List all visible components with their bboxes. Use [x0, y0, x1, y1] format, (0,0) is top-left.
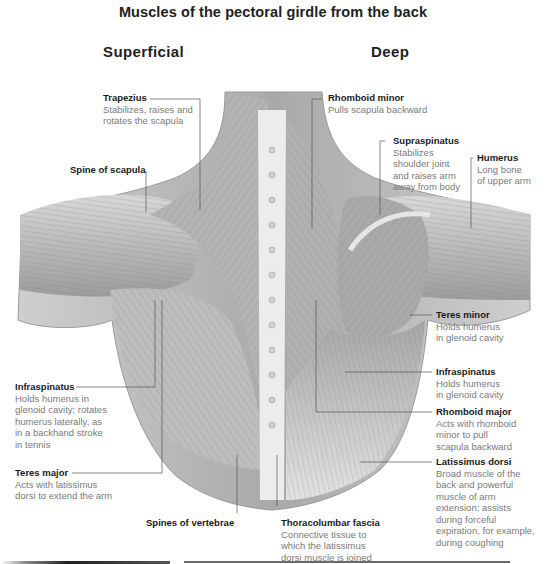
- label-humerus: Humerus Long bone of upper arm: [477, 152, 531, 187]
- label-name: Spine of scapula: [70, 164, 146, 176]
- label-spine-of-scapula: Spine of scapula: [70, 164, 146, 176]
- label-name: Rhomboid minor: [328, 92, 427, 104]
- label-name: Spines of vertebrae: [146, 517, 234, 529]
- label-desc-line: during forceful: [436, 514, 535, 526]
- label-desc-line: of upper arm: [477, 175, 531, 187]
- label-desc-line: rotates the scapula: [103, 115, 193, 127]
- label-desc-line: scapula backward: [436, 441, 516, 453]
- label-desc-line: in glenoid cavity: [436, 332, 504, 344]
- label-name: Supraspinatus: [393, 135, 460, 147]
- label-desc-line: which the latissimus: [281, 540, 380, 552]
- label-desc-line: in tennis: [15, 439, 107, 451]
- label-desc-line: away from body: [393, 181, 460, 193]
- label-desc-line: minor to pull: [436, 429, 516, 441]
- spine-fascia: [258, 110, 286, 500]
- label-trapezius: Trapezius Stabilizes, raises and rotates…: [103, 92, 193, 127]
- label-infraspinatus-superficial: Infraspinatus Holds humerus in glenoid c…: [15, 381, 107, 450]
- label-teres-major: Teres major Acts with latissimus dorsi t…: [15, 467, 112, 502]
- label-name: Humerus: [477, 152, 531, 164]
- label-rhomboid-minor: Rhomboid minor Pulls scapula backward: [328, 92, 427, 115]
- label-desc-line: Long bone: [477, 164, 531, 176]
- label-desc-line: back and powerful: [436, 479, 535, 491]
- label-desc-line: Holds humerus: [436, 378, 504, 390]
- label-desc-line: dorsi to extend the arm: [15, 490, 112, 502]
- label-name: Rhomboid major: [436, 406, 516, 418]
- label-thoracolumbar-fascia: Thoracolumbar fascia Connective tissue t…: [281, 517, 380, 563]
- label-desc-line: Holds humerus in: [15, 393, 107, 405]
- label-desc-line: shoulder joint: [393, 158, 460, 170]
- label-desc-line: humerus laterally, as: [15, 416, 107, 428]
- label-desc-line: during coughing: [436, 537, 535, 549]
- label-rhomboid-major: Rhomboid major Acts with rhomboid minor …: [436, 406, 516, 452]
- label-spines-of-vertebrae: Spines of vertebrae: [146, 517, 234, 529]
- label-name: Thoracolumbar fascia: [281, 517, 380, 529]
- label-desc-line: Holds humerus: [436, 321, 504, 333]
- label-name: Trapezius: [103, 92, 193, 104]
- label-latissimus-dorsi: Latissimus dorsi Broad muscle of the bac…: [436, 456, 535, 548]
- label-infraspinatus-deep: Infraspinatus Holds humerus in glenoid c…: [436, 366, 504, 401]
- label-supraspinatus: Supraspinatus Stabilizes shoulder joint …: [393, 135, 460, 193]
- label-name: Teres minor: [436, 309, 504, 321]
- bottom-rule: [184, 561, 510, 563]
- label-desc-line: Stabilizes: [393, 147, 460, 159]
- label-desc-line: Stabilizes, raises and: [103, 104, 193, 116]
- label-name: Latissimus dorsi: [436, 456, 535, 468]
- label-name: Infraspinatus: [15, 381, 107, 393]
- label-name: Teres major: [15, 467, 112, 479]
- label-desc-line: in a backhand stroke: [15, 427, 107, 439]
- label-desc-line: Pulls scapula backward: [328, 104, 427, 116]
- label-desc-line: Acts with latissimus: [15, 479, 112, 491]
- label-desc-line: Connective tissue to: [281, 529, 380, 541]
- label-desc-line: and raises arm: [393, 170, 460, 182]
- label-desc-line: Broad muscle of the: [436, 468, 535, 480]
- label-desc-line: in glenoid cavity: [436, 389, 504, 401]
- label-name: Infraspinatus: [436, 366, 504, 378]
- label-desc-line: muscle of arm: [436, 491, 535, 503]
- label-desc-line: extension; assists: [436, 502, 535, 514]
- label-desc-line: Acts with rhomboid: [436, 418, 516, 430]
- label-desc-line: glenoid cavity; rotates: [15, 404, 107, 416]
- label-teres-minor: Teres minor Holds humerus in glenoid cav…: [436, 309, 504, 344]
- label-desc-line: expiration, for example,: [436, 525, 535, 537]
